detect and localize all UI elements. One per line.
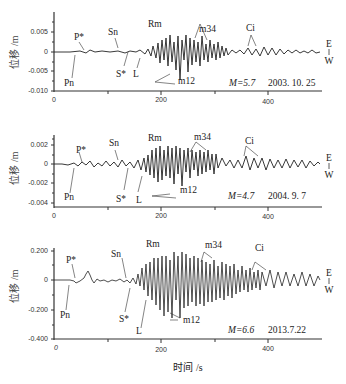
ytick-2-3: -0.004 (28, 199, 48, 206)
phase-l-2: L (136, 195, 142, 205)
ytick-2-1: 0 (44, 160, 48, 167)
xtick-3-2: 400 (262, 345, 274, 352)
phase-sstar-1: S* (116, 69, 126, 79)
phase-pstar-3: P* (66, 255, 76, 265)
xtick-3-0: 0 (54, 344, 58, 351)
phase-sstar-3: S* (119, 314, 129, 324)
panel-3: 0.200 0 -0.200 -0.400 0 200 400 位移 /m 时间… (8, 239, 334, 373)
ytick-2-0: 0.002 (30, 141, 48, 148)
component-e-3: E (326, 268, 332, 278)
phase-pstar-1: P* (74, 32, 84, 42)
waveform-2 (54, 146, 320, 186)
xtick-2-1: 200 (155, 212, 167, 219)
component-w-1: W (325, 56, 334, 66)
ytick-3-0: 0.200 (30, 247, 48, 254)
phase-sn-2: Sn (109, 138, 119, 148)
phase-m12-1: m12 (178, 76, 195, 86)
ylabel-1: 位移 /m (8, 35, 20, 68)
magnitude-1: M=5.7 (228, 78, 256, 88)
component-e-1: E (326, 39, 332, 49)
ytick-3-2: -0.200 (28, 306, 48, 313)
phase-ci-1: Ci (246, 23, 255, 33)
phase-pn-2: Pn (64, 192, 74, 202)
phase-pstar-2: P* (76, 145, 86, 155)
phase-sstar-2: S* (116, 194, 126, 204)
ytick-1-1: 0 (44, 48, 48, 55)
waveform-1 (54, 35, 320, 80)
date-3: 2013.7.22 (268, 325, 306, 335)
phase-rm-3: Rm (146, 239, 160, 249)
ytick-3-1: 0 (44, 276, 48, 283)
panel-2: 0.002 0 -0.002 -0.004 0 200 400 位移 /m P*… (8, 132, 334, 220)
ytick-3-3: -0.400 (28, 335, 48, 342)
phase-rm-1: Rm (148, 19, 162, 29)
phase-m34-2: m34 (194, 132, 211, 142)
waveform-3 (54, 252, 320, 318)
ylabel-2: 位移 /m (8, 151, 20, 184)
date-2: 2004. 9. 7 (268, 191, 306, 201)
phase-rm-2: Rm (148, 133, 162, 143)
xtick-1-2: 400 (262, 98, 274, 105)
xtick-2-2: 400 (262, 213, 274, 220)
ytick-1-0: 0.005 (30, 28, 48, 35)
phase-m34-1: m34 (199, 24, 216, 34)
panel-1: 0.005 0 -0.005 -0.010 0 200 400 位移 /m P*… (8, 12, 334, 105)
component-w-2: W (325, 170, 334, 180)
component-w-3: W (325, 285, 334, 295)
xtick-1-1: 200 (155, 96, 167, 103)
phase-l-3: L (136, 326, 142, 336)
xlabel: 时间 /s (173, 361, 202, 373)
phase-m12-2: m12 (180, 185, 197, 195)
ytick-1-2: -0.005 (28, 67, 48, 74)
phase-m12-3: m12 (183, 315, 200, 325)
phase-l-1: L (133, 69, 139, 79)
component-e-2: E (326, 153, 332, 163)
ytick-1-3: -0.010 (28, 87, 48, 94)
phase-sn-1: Sn (108, 27, 118, 37)
magnitude-2: M=4.7 (227, 191, 255, 201)
xtick-2-0: 0 (52, 212, 56, 219)
seismogram-figure: 0.005 0 -0.005 -0.010 0 200 400 位移 /m P*… (0, 0, 346, 384)
date-1: 2003. 10. 25 (268, 78, 316, 88)
phase-pn-1: Pn (64, 78, 74, 88)
phase-m34-3: m34 (205, 240, 222, 250)
ytick-2-2: -0.002 (28, 179, 48, 186)
magnitude-3: M=6.6 (227, 325, 254, 335)
phase-ci-2: Ci (245, 136, 254, 146)
ylabel-3: 位移 /m (8, 269, 20, 302)
phase-pn-3: Pn (60, 310, 70, 320)
phase-sn-3: Sn (111, 249, 121, 259)
xtick-1-0: 0 (52, 96, 56, 103)
xtick-3-1: 200 (155, 346, 167, 353)
phase-ci-3: Ci (255, 243, 264, 253)
